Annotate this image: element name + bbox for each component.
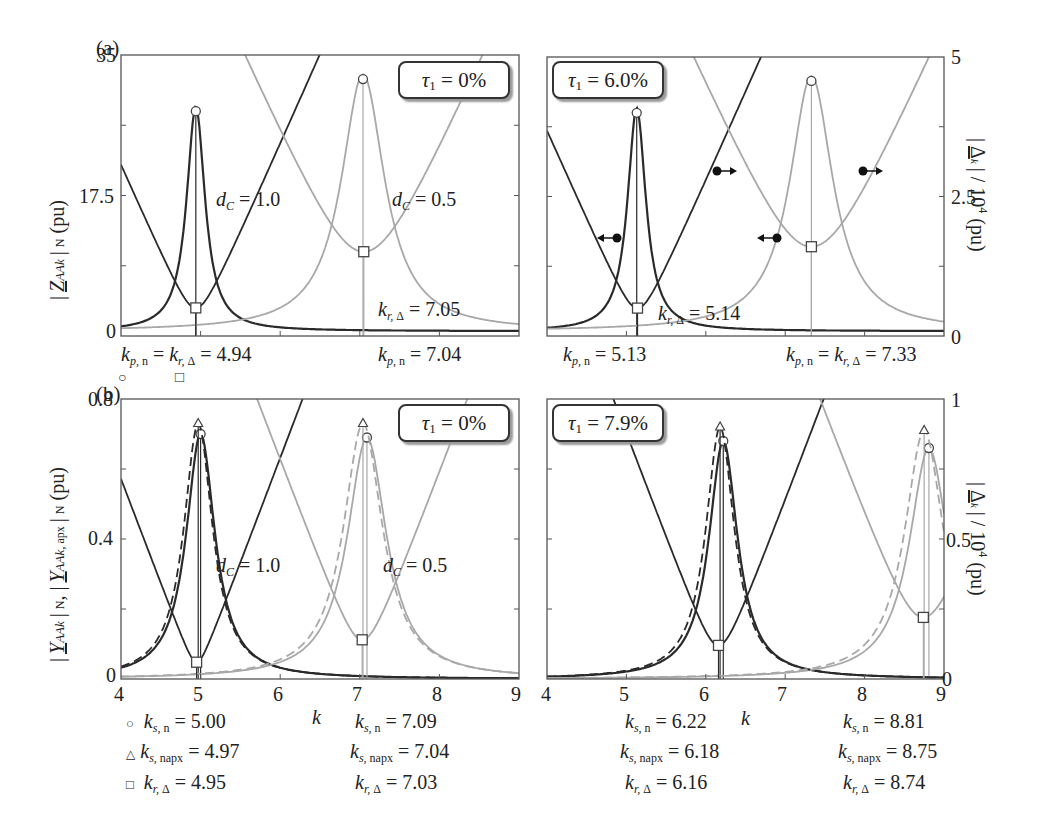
a-left-kr-annotation: kr, Δ = 7.05 <box>378 298 460 324</box>
a-left-ytick-35: 35 <box>96 44 116 67</box>
a-left-dc2-annotation: dC = 0.5 <box>392 188 456 214</box>
br-legend-ks-n-1: ks, n = 6.22 <box>625 710 707 736</box>
a-left-kp2-annotation: kp, n = 7.04 <box>378 343 461 369</box>
b-left-dc2-annotation: dC = 0.5 <box>383 554 447 580</box>
bl-xtick-9: 9 <box>511 683 521 706</box>
a-left-yaxis-title: | ZAAk | N (pu) <box>46 200 69 300</box>
a-right-kp1-annotation: kp, n = 5.13 <box>563 343 646 369</box>
b-right-ytick-1: 1 <box>951 389 961 412</box>
br-legend-kr-1: kr, Δ = 6.16 <box>625 771 707 797</box>
a-right-tau-value: 6.0% <box>604 68 648 92</box>
bl-xaxis-label: k <box>312 706 321 729</box>
br-xtick-4: 4 <box>541 683 551 706</box>
a-left-ytick-0: 0 <box>106 320 116 343</box>
bl-xtick-8: 8 <box>432 683 442 706</box>
bl-xtick-4: 4 <box>114 683 124 706</box>
figure-canvas <box>0 0 1041 831</box>
a-left-tau-box: τ1 = 0% <box>398 61 510 99</box>
br-xtick-9: 9 <box>936 683 946 706</box>
a-right-ytick-0: 0 <box>951 326 961 349</box>
b-right-tau-value: 7.9% <box>604 411 648 435</box>
a-right-tau-box: τ1 = 6.0% <box>552 61 664 99</box>
br-legend-ks-n-2: ks, n = 8.81 <box>843 710 925 736</box>
br-legend-ks-napx-1: ks, napx = 6.18 <box>620 740 719 766</box>
bl-xtick-5: 5 <box>193 683 203 706</box>
a-left-ytick-17.5: 17.5 <box>79 185 114 208</box>
bl-legend-ks-n-2: ks, n = 7.09 <box>355 710 437 736</box>
a-right-kr-annotation: kr, Δ = 5.14 <box>658 302 740 328</box>
b-left-ytick-0.4: 0.4 <box>88 527 113 550</box>
square-marker-legend-icon: □ <box>175 369 184 386</box>
b-left-dc1-annotation: dC = 1.0 <box>216 554 280 580</box>
b-left-yaxis-title: | YAAk | N, | YAAk, apx | N (pu) <box>46 467 69 662</box>
br-legend-ks-napx-2: ks, napx = 8.75 <box>838 740 937 766</box>
bl-legend-ks-n-1: ○ ks, n = 5.00 <box>126 710 226 736</box>
br-xtick-6: 6 <box>699 683 709 706</box>
circle-marker-legend-icon: ○ <box>118 370 126 386</box>
bl-legend-kr-1: □ kr, Δ = 4.95 <box>126 771 226 797</box>
bl-xtick-7: 7 <box>352 683 362 706</box>
br-xtick-5: 5 <box>619 683 629 706</box>
a-left-kp1-annotation: kp, n = kr, Δ = 4.94 <box>121 343 251 369</box>
a-right-ytick-5: 5 <box>951 46 961 69</box>
a-right-yaxis-title: | Δk | / 104 (pu) <box>966 138 990 252</box>
bl-xtick-6: 6 <box>273 683 283 706</box>
b-right-yaxis-title: | Δk | / 104 (pu) <box>966 482 990 596</box>
a-right-kp2-annotation: kp, n = kr, Δ = 7.33 <box>786 343 916 369</box>
bl-legend-kr-2: kr, Δ = 7.03 <box>355 771 437 797</box>
br-legend-kr-2: kr, Δ = 8.74 <box>843 771 925 797</box>
b-left-ytick-0.8: 0.8 <box>88 388 113 411</box>
bl-legend-ks-napx-1: △ ks, napx = 4.97 <box>126 740 239 766</box>
b-left-tau-box: τ1 = 0% <box>398 404 510 442</box>
br-xaxis-label: k <box>741 707 750 730</box>
b-right-tau-box: τ1 = 7.9% <box>552 404 664 442</box>
a-left-dc1-annotation: dC = 1.0 <box>216 188 280 214</box>
bl-legend-ks-napx-2: ks, napx = 7.04 <box>350 740 449 766</box>
br-xtick-7: 7 <box>777 683 787 706</box>
b-left-tau-value: 0% <box>458 411 486 435</box>
a-left-tau-value: 0% <box>458 68 486 92</box>
br-xtick-8: 8 <box>857 683 867 706</box>
